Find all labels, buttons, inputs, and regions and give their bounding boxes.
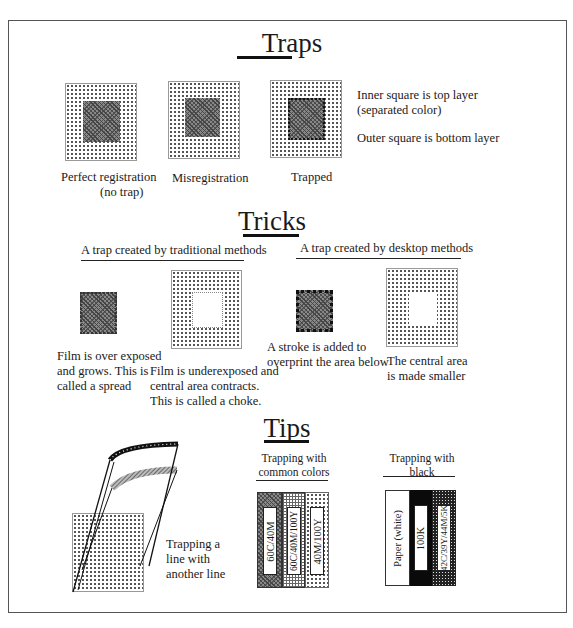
bar-label-42c-39y-44m-5k: 42C/39Y/44M/5K [439,505,449,571]
bar-label-paper-white: Paper (white) [392,510,403,567]
caption-choke-3: This is called a choke. [150,394,261,409]
heading-black-1: Trapping with [386,451,458,465]
caption-line-trap-3: another line [166,567,225,582]
caption-stroke-2: overprint the area below [267,355,389,370]
bar-label-100k: 100K [416,526,427,549]
heading-common-colors-2: common colors [256,465,332,479]
bar-60c-40m-100y: 60C/40M/100Y [282,492,305,588]
bar-label-40m-100y: 40M/100Y [312,518,323,564]
bar-label-box: 100K [414,505,428,571]
caption-smaller-2: is made smaller [387,369,465,384]
outer-square-perfect [65,83,137,161]
outer-square-trapped [270,80,342,158]
caption-misregistration: Misregistration [172,171,248,186]
heading-traditional-methods: A trap created by traditional methods [81,243,267,258]
smaller-center [409,292,437,324]
bar-60c-40m: 60C/40M [257,492,282,588]
inner-square-misregistration [185,98,220,137]
choke-square [171,270,242,349]
legend-inner-square: Inner square is top layer [357,88,478,103]
caption-spread-3: called a spread [57,379,131,394]
heading-underline [81,260,244,261]
section-title-tips: Tips [227,413,347,443]
bar-42c-39y-44m-5k: 42C/39Y/44M/5K [432,490,456,586]
bar-label-box: 42C/39Y/44M/5K [437,505,451,571]
heading-underline [256,480,328,481]
caption-choke-1: Film is underexposed and [150,364,279,379]
bar-label-box: 40M/100Y [310,507,324,575]
caption-spread-1: Film is over exposed [57,349,162,364]
spread-square [80,292,117,334]
bar-label-box: 60C/40M [263,507,277,575]
heading-underline [296,258,461,259]
bar-paper-white: Paper (white) [385,490,410,586]
section-title-traps: Traps [232,28,352,58]
stroke-square [296,290,333,332]
outer-square-misregistration [168,81,240,159]
caption-perfect-registration: Perfect registration [61,170,156,185]
section-title-tricks: Tricks [212,206,332,236]
choke-center [192,292,223,328]
legend-outer-square: Outer square is bottom layer [357,131,499,146]
title-underline [237,56,292,59]
caption-no-trap: (no trap) [100,185,143,200]
bar-100k: 100K [410,490,432,586]
caption-choke-2: central area contracts. [150,379,259,394]
caption-stroke-1: A stroke is added to [267,340,366,355]
caption-spread-2: and grows. This is [57,364,148,379]
heading-common-colors-1: Trapping with [259,451,329,465]
inner-square-trapped [288,98,325,140]
smaller-center-square [386,268,458,347]
caption-trapped: Trapped [291,170,332,185]
inner-square-perfect [83,101,120,142]
legend-separated-color: (separated color) [357,103,441,118]
heading-underline [383,476,455,477]
caption-smaller-1: The central area [387,354,468,369]
title-underline [243,234,299,237]
bar-label-60c-40m: 60C/40M [265,521,276,561]
bar-label-60c-40m-100y: 60C/40M/100Y [289,511,299,571]
caption-line-trap-1: Trapping a [166,537,220,552]
bar-40m-100y: 40M/100Y [305,492,329,588]
bar-label-box: 60C/40M/100Y [287,507,301,575]
title-underline [264,440,309,443]
heading-desktop-methods: A trap created by desktop methods [300,241,473,256]
caption-line-trap-2: line with [166,552,210,567]
